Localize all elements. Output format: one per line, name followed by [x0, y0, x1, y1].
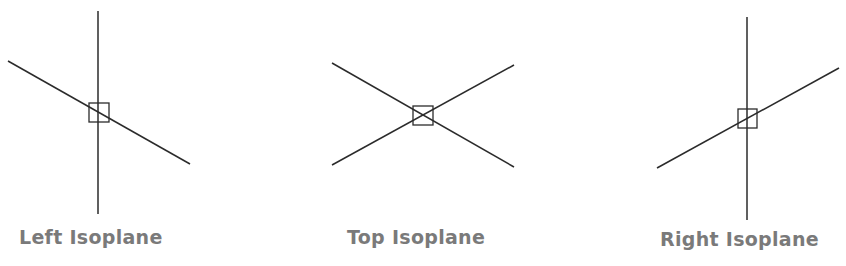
top-isoplane-crosshair-icon — [332, 63, 514, 167]
left-isoplane-label: Left Isoplane — [19, 226, 163, 248]
top-isoplane-label: Top Isoplane — [347, 226, 485, 248]
right-isoplane-label: Right Isoplane — [660, 228, 819, 250]
left-isoplane-crosshair-icon — [8, 11, 190, 214]
right-isoplane-crosshair-icon — [657, 17, 839, 220]
